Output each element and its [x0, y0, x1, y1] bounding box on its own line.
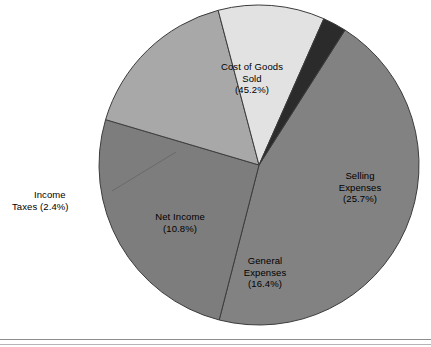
slice-label-line: Expenses	[312, 182, 408, 194]
slice-value-text: (16.4%)	[217, 278, 313, 290]
slice-label-selling-expenses: Selling Expenses (25.7%)	[312, 170, 408, 205]
slice-label-line: Cost of Goods	[194, 61, 310, 73]
footer-rule-secondary	[0, 344, 431, 345]
slice-label-cost-of-goods-sold: Cost of Goods Sold (45.2%)	[194, 61, 310, 96]
slice-label-line: Expenses	[217, 267, 313, 279]
slice-label-line: Selling	[312, 170, 408, 182]
slice-value-text: (25.7%)	[312, 193, 408, 205]
slice-label-line: General	[217, 255, 313, 267]
slice-label-line: Net Income	[128, 211, 232, 223]
slice-label-income-taxes: Income Taxes (2.4%)	[12, 189, 116, 212]
slice-label-line: Income	[12, 189, 116, 201]
slice-value-text: (10.8%)	[128, 223, 232, 235]
footer-rule-primary	[0, 339, 431, 340]
slice-label-line: Sold	[194, 73, 310, 85]
slice-label-general-expenses: General Expenses (16.4%)	[217, 255, 313, 290]
slice-value-text: (45.2%)	[194, 84, 310, 96]
slice-label-net-income: Net Income (10.8%)	[128, 211, 232, 234]
slice-value-text: Taxes (2.4%)	[12, 201, 116, 213]
pie-chart-figure: Cost of Goods Sold (45.2%) Selling Expen…	[0, 0, 431, 347]
